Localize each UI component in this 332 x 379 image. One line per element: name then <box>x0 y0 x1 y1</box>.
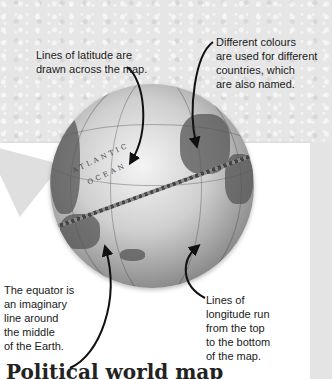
landmass <box>120 249 145 261</box>
globe-image: ATLANTIC OCEAN <box>50 84 254 288</box>
caption-equator: The equator is an imaginary line around … <box>4 283 74 353</box>
page-title: Political world map <box>6 360 223 379</box>
caption-latitude: Lines of latitude are drawn across the m… <box>36 48 147 76</box>
caption-longitude: Lines of longitude run from the top to t… <box>206 293 270 363</box>
textured-right-strip <box>310 143 332 379</box>
caption-colours: Different colours are used for different… <box>216 35 317 91</box>
landmass <box>50 114 80 214</box>
